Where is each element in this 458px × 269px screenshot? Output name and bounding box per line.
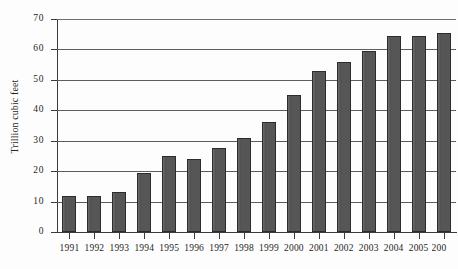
y-tick-label-20: 20: [0, 165, 44, 175]
bar-1995: [162, 156, 176, 232]
bar-1994: [137, 173, 151, 232]
x-tick-2000: [294, 233, 295, 239]
bar-2001: [312, 71, 326, 232]
bar-1997: [212, 148, 226, 232]
x-tick-1995: [169, 233, 170, 239]
y-tick-label-0: 0: [0, 226, 44, 236]
bar-1996: [187, 159, 201, 232]
x-tick-2004: [394, 233, 395, 239]
bar-2002: [337, 62, 351, 232]
x-tick-label-2005: 2005: [403, 243, 435, 253]
x-axis-line: [57, 232, 457, 233]
gridline-70: [57, 19, 456, 20]
x-tick-1994: [144, 233, 145, 239]
y-tick-label-10: 10: [0, 196, 44, 206]
x-tick-1992: [94, 233, 95, 239]
bar-2003: [362, 51, 376, 232]
bar-2006: [437, 33, 451, 232]
x-tick-1998: [244, 233, 245, 239]
x-tick-2001: [319, 233, 320, 239]
bar-1993: [112, 192, 126, 232]
x-tick-1999: [269, 233, 270, 239]
y-tick-label-70: 70: [0, 13, 44, 23]
bar-2000: [287, 95, 301, 232]
bar-2005: [412, 36, 426, 232]
x-tick-1993: [119, 233, 120, 239]
x-tick-1996: [194, 233, 195, 239]
x-tick-2002: [344, 233, 345, 239]
bar-2004: [387, 36, 401, 232]
bar-chart-figure: Trillion cubic feet 010203040506070 1991…: [0, 0, 458, 269]
x-tick-2005: [419, 233, 420, 239]
bar-1992: [87, 196, 101, 233]
y-tick-label-60: 60: [0, 43, 44, 53]
y-tick-label-40: 40: [0, 104, 44, 114]
bar-1998: [237, 138, 251, 232]
y-tick-label-50: 50: [0, 74, 44, 84]
y-tick-label-30: 30: [0, 135, 44, 145]
plot-area: [57, 19, 456, 232]
x-tick-2003: [369, 233, 370, 239]
x-tick-2006: [444, 233, 445, 239]
x-tick-1997: [219, 233, 220, 239]
bar-1999: [262, 122, 276, 232]
bar-1991: [62, 196, 76, 233]
x-tick-label-2006: 200: [432, 243, 456, 253]
x-tick-1991: [69, 233, 70, 239]
